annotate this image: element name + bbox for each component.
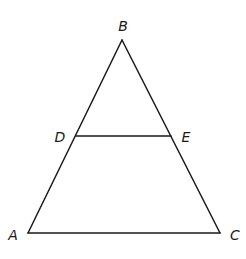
vertex-label-c: C (230, 227, 240, 243)
vertex-label-a: A (7, 227, 18, 243)
vertex-label-b: B (118, 18, 128, 34)
vertex-label-d: D (55, 129, 66, 145)
vertex-label-e: E (182, 129, 191, 145)
vertex-labels: ABCDE (7, 18, 240, 243)
triangle-diagram: ABCDE (0, 0, 246, 259)
